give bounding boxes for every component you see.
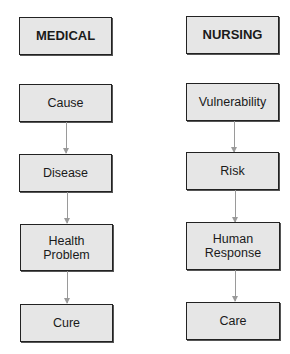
arrow-cause-to-disease xyxy=(66,122,67,153)
arrow-human-response-to-care xyxy=(235,270,236,301)
step-label: Health Problem xyxy=(37,234,97,262)
medical-step-cause: Cause xyxy=(19,84,112,122)
step-label: Human Response xyxy=(198,232,268,260)
arrow-vulnerability-to-risk xyxy=(234,121,235,152)
medical-step-health-problem: Health Problem xyxy=(20,224,113,271)
medical-header: MEDICAL xyxy=(19,17,112,55)
medical-step-cure: Cure xyxy=(20,304,113,342)
step-label: Care xyxy=(219,314,246,328)
medical-header-label: MEDICAL xyxy=(36,29,95,43)
nursing-header-label: NURSING xyxy=(203,28,263,42)
medical-step-disease: Disease xyxy=(19,154,112,192)
step-label: Risk xyxy=(220,164,244,178)
nursing-step-risk: Risk xyxy=(186,152,279,190)
nursing-step-care: Care xyxy=(186,302,280,340)
nursing-step-human-response: Human Response xyxy=(186,222,280,270)
arrow-health-problem-to-cure xyxy=(67,271,68,303)
nursing-step-vulnerability: Vulnerability xyxy=(186,83,279,121)
arrow-risk-to-human-response xyxy=(235,190,236,222)
arrow-disease-to-health-problem xyxy=(67,192,68,223)
nursing-header: NURSING xyxy=(186,16,279,54)
step-label: Cure xyxy=(53,316,80,330)
step-label: Vulnerability xyxy=(199,95,267,109)
step-label: Cause xyxy=(47,96,83,110)
step-label: Disease xyxy=(43,166,88,180)
